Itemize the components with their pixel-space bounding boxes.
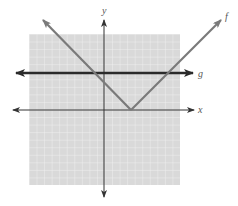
y-axis-label: y: [101, 5, 107, 16]
f-label: f: [225, 11, 229, 22]
graph: x y g f: [0, 0, 238, 206]
g-label: g: [198, 68, 203, 79]
x-axis-label: x: [197, 104, 203, 115]
